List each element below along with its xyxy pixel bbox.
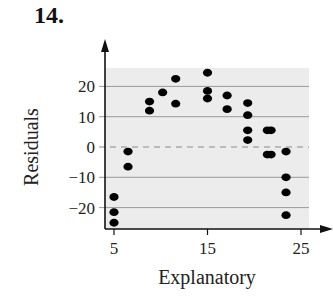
data-point bbox=[203, 87, 212, 95]
data-point bbox=[123, 148, 132, 156]
data-point bbox=[243, 126, 252, 134]
data-point bbox=[266, 151, 275, 159]
y-axis-title: Residuals bbox=[20, 108, 42, 186]
data-point bbox=[171, 75, 180, 83]
data-point bbox=[281, 189, 290, 197]
data-point bbox=[109, 193, 118, 201]
data-point bbox=[123, 163, 132, 171]
x-tick-label: 15 bbox=[199, 239, 216, 258]
x-axis-arrow-icon bbox=[320, 225, 333, 233]
data-point bbox=[281, 148, 290, 156]
y-tick-label: 10 bbox=[78, 108, 95, 127]
y-tick-label: −20 bbox=[68, 199, 95, 218]
data-point bbox=[281, 173, 290, 181]
data-point bbox=[171, 100, 180, 108]
data-point bbox=[203, 69, 212, 77]
data-point bbox=[145, 98, 154, 106]
y-tick-label: 20 bbox=[78, 77, 95, 96]
x-axis-title: Explanatory bbox=[158, 266, 256, 289]
data-point bbox=[243, 136, 252, 144]
data-point bbox=[266, 126, 275, 134]
data-point bbox=[223, 92, 232, 100]
data-point bbox=[281, 211, 290, 219]
data-point bbox=[158, 89, 167, 97]
data-point bbox=[243, 111, 252, 119]
x-tick-label: 5 bbox=[110, 239, 119, 258]
y-axis-arrow-icon bbox=[101, 39, 109, 52]
data-point bbox=[109, 219, 118, 227]
y-tick-label: −10 bbox=[68, 168, 95, 187]
data-point bbox=[145, 107, 154, 115]
y-tick-label: 0 bbox=[87, 138, 96, 157]
data-point bbox=[223, 105, 232, 113]
x-tick-label: 25 bbox=[293, 239, 310, 258]
data-point bbox=[203, 95, 212, 103]
data-point bbox=[243, 99, 252, 107]
residual-plot: 51525−20−1001020 Explanatory Residuals bbox=[0, 0, 333, 306]
data-point bbox=[109, 208, 118, 216]
